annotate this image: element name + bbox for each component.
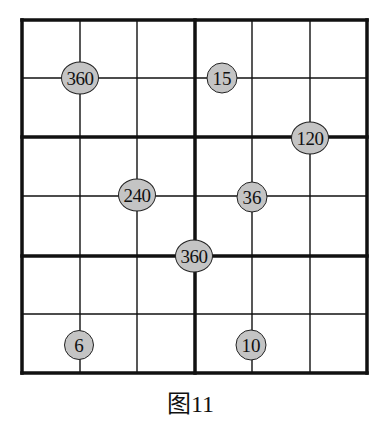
clue-circle: 120 xyxy=(291,122,329,155)
clue-value: 360 xyxy=(67,69,94,88)
clue-value: 120 xyxy=(297,129,324,148)
clue-circle: 6 xyxy=(64,330,94,360)
clue-value: 360 xyxy=(181,247,208,266)
clue-circle: 360 xyxy=(175,240,213,273)
clue-value: 6 xyxy=(74,336,84,355)
clue-circle: 15 xyxy=(207,63,238,94)
clue-circle: 240 xyxy=(118,179,156,212)
clue-circle: 10 xyxy=(236,330,267,361)
puzzle-grid xyxy=(0,0,381,400)
clue-circle: 36 xyxy=(237,182,268,213)
figure-caption: 图11 xyxy=(0,384,381,419)
clue-value: 10 xyxy=(242,336,261,355)
clue-circle: 360 xyxy=(61,62,99,95)
clue-value: 240 xyxy=(124,186,151,205)
clue-value: 36 xyxy=(243,188,262,207)
clue-value: 15 xyxy=(213,69,232,88)
